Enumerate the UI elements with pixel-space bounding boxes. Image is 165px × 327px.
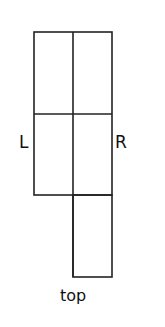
left-label: L bbox=[19, 132, 28, 152]
layout-diagram bbox=[0, 0, 165, 327]
lower-block bbox=[73, 195, 112, 277]
bottom-label: top bbox=[60, 286, 86, 305]
right-label: R bbox=[115, 132, 127, 152]
